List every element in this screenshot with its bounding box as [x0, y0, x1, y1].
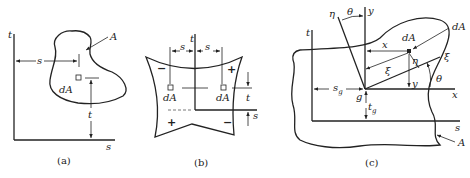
- figure-canvas: t s A s dA t (a) t s s dA dA: [0, 0, 470, 178]
- area-pointer: [86, 37, 108, 50]
- dim-sg-label: sg: [333, 82, 343, 96]
- element-label: dA: [59, 84, 73, 95]
- area-label: A: [109, 31, 117, 42]
- dim-t-label: t: [88, 109, 93, 120]
- panel-b: t s s dA dA t s − + + − (b): [146, 33, 258, 168]
- axis-y-label: y: [367, 5, 374, 16]
- dim-y-label: y: [411, 78, 418, 89]
- panel-a: t s A s dA t (a): [8, 29, 126, 166]
- area-label: A: [457, 137, 465, 148]
- theta-arc-right: [427, 63, 431, 87]
- sign-bottom-right: −: [223, 116, 232, 129]
- dim-s-label: s: [253, 110, 258, 121]
- axis-xi-label: ξ: [444, 51, 450, 62]
- element-pointer: [413, 28, 449, 49]
- dim-eta-label: η: [412, 55, 418, 66]
- dim-sg-sub: g: [338, 88, 343, 96]
- area-c-outline: [292, 18, 450, 148]
- axis-eta-label: η: [329, 8, 335, 19]
- angle-top-label: θ: [347, 6, 353, 17]
- axis-s-label: s: [455, 122, 460, 133]
- area-pointer: [437, 135, 455, 142]
- element-da-right: [221, 85, 226, 90]
- axis-s-label: s: [106, 141, 111, 152]
- axis-t-label: t: [190, 33, 195, 44]
- dim-tg-label: tg: [368, 101, 377, 115]
- element-label: dA: [402, 32, 416, 43]
- dim-xi-label: ξ: [385, 65, 391, 76]
- sign-bottom-left: +: [167, 116, 176, 129]
- element-pointer-label: dA: [452, 21, 466, 32]
- axis-x-label: x: [452, 89, 458, 100]
- panel-c: t s y x η ξ θ θ dA dA x ξ η y sg g tg A …: [292, 5, 466, 168]
- element-left-label: dA: [163, 92, 177, 103]
- eta-axis: [338, 17, 365, 89]
- axis-t-label: t: [8, 29, 13, 40]
- element-da-left: [168, 85, 173, 90]
- dim-s-label: s: [37, 55, 42, 66]
- caption-a: (a): [57, 155, 71, 166]
- dim-x-label: x: [382, 39, 388, 50]
- element-right-label: dA: [216, 92, 230, 103]
- dim-t-label: t: [246, 92, 251, 103]
- angle-right-label: θ: [436, 73, 442, 84]
- caption-b: (b): [194, 157, 208, 168]
- element-da: [76, 75, 81, 80]
- xi-axis: [365, 57, 440, 89]
- sign-top-right: +: [227, 63, 236, 76]
- dim-tg-sub: g: [372, 107, 377, 115]
- axis-t-label: t: [306, 27, 311, 38]
- sign-top-left: −: [157, 62, 166, 75]
- caption-c: (c): [365, 157, 379, 168]
- element-da: [407, 49, 411, 53]
- dim-s-right: s: [205, 41, 210, 52]
- centroid-label: g: [356, 91, 362, 102]
- dim-s-left: s: [180, 41, 185, 52]
